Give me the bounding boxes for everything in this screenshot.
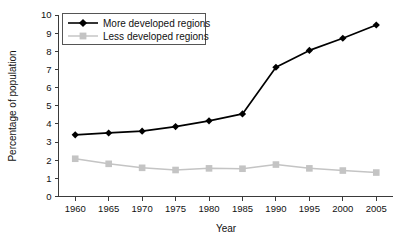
x-tick-label: 1990 (265, 203, 286, 214)
x-tick-label: 1980 (198, 203, 219, 214)
y-tick-label: 7 (46, 64, 51, 75)
y-tick-label: 4 (46, 118, 51, 129)
y-tick-label: 1 (46, 173, 51, 184)
square-marker-icon (373, 169, 380, 176)
x-tick-label: 1995 (299, 203, 320, 214)
y-tick-label: 0 (46, 191, 51, 202)
square-marker-icon (139, 165, 146, 172)
square-marker-icon (206, 165, 213, 172)
y-tick-label: 8 (46, 46, 51, 57)
square-marker-icon (273, 161, 280, 168)
square-marker-icon (105, 161, 112, 168)
square-marker-icon (239, 165, 246, 172)
legend-label-less: Less developed regions (103, 31, 209, 42)
y-tick-label: 6 (46, 82, 51, 93)
line-chart: 012345678910 196019651970197519801985199… (0, 0, 402, 245)
y-axis-title: Percentage of population (7, 50, 18, 161)
y-tick-label: 10 (41, 9, 52, 20)
legend-label-more: More developed regions (103, 18, 210, 29)
x-tick-label: 1975 (165, 203, 186, 214)
x-axis-title: Year (216, 223, 237, 234)
y-tick-label: 2 (46, 155, 51, 166)
x-tick-label: 1965 (98, 203, 119, 214)
y-tick-label: 9 (46, 28, 51, 39)
y-tick-label: 5 (46, 100, 51, 111)
square-marker-icon (80, 33, 87, 40)
y-tick-label: 3 (46, 136, 51, 147)
square-marker-icon (72, 155, 79, 162)
square-marker-icon (340, 167, 347, 174)
square-marker-icon (306, 165, 313, 172)
x-tick-label: 1970 (132, 203, 153, 214)
x-tick-label: 1985 (232, 203, 253, 214)
x-tick-label: 2000 (332, 203, 353, 214)
chart-canvas: 012345678910 196019651970197519801985199… (0, 0, 402, 245)
x-tick-label: 2005 (366, 203, 387, 214)
x-tick-label: 1960 (65, 203, 86, 214)
square-marker-icon (172, 167, 179, 174)
legend: More developed regions Less developed re… (63, 14, 211, 45)
